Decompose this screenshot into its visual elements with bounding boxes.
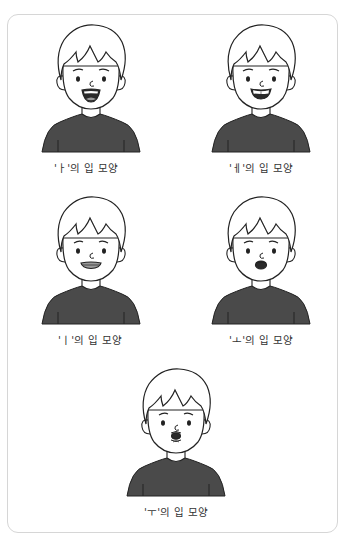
shirt <box>42 114 140 152</box>
eye-right <box>102 248 106 254</box>
caption-o: 'ㅗ'의 입 모양 <box>191 332 331 347</box>
face <box>233 238 289 281</box>
shirt <box>42 286 140 324</box>
caption-u: 'ㅜ'의 입 모양 <box>106 504 246 519</box>
face <box>233 66 289 109</box>
eye-right <box>272 76 276 82</box>
figure-u <box>121 362 231 500</box>
caption-e: 'ㅔ'의 입 모양 <box>191 160 331 175</box>
figure-o <box>206 190 316 328</box>
figure-e <box>206 18 316 156</box>
caption-a: 'ㅏ'의 입 모양 <box>16 160 156 175</box>
caption-i: 'ㅣ'의 입 모양 <box>20 332 160 347</box>
figure-a <box>36 18 146 156</box>
eye-left <box>246 76 250 82</box>
eye-right <box>187 420 191 426</box>
eye-right <box>272 248 276 254</box>
boy-portrait-icon <box>206 18 316 156</box>
shirt <box>212 286 310 324</box>
eye-left <box>76 76 80 82</box>
eye-right <box>102 76 106 82</box>
boy-portrait-icon <box>121 362 231 500</box>
face <box>63 238 119 281</box>
boy-portrait-icon <box>206 190 316 328</box>
eye-left <box>161 420 165 426</box>
boy-portrait-icon <box>36 190 146 328</box>
eye-left <box>76 248 80 254</box>
eye-left <box>246 248 250 254</box>
boy-portrait-icon <box>36 18 146 156</box>
shirt <box>127 458 225 496</box>
shirt <box>212 114 310 152</box>
figure-i <box>36 190 146 328</box>
